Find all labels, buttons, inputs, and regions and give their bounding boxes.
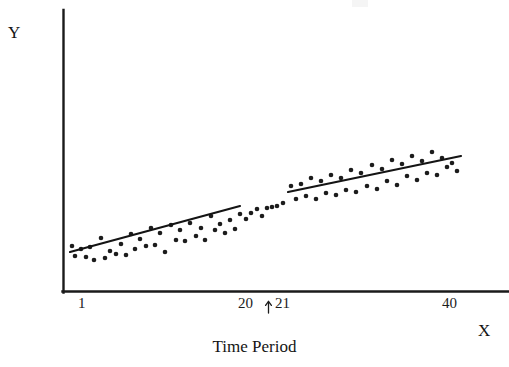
data-point xyxy=(163,250,168,255)
data-point xyxy=(420,159,425,164)
data-point xyxy=(410,154,415,159)
scatter-plot-figure: Y X 1 20 21 40 Time Period xyxy=(0,0,509,367)
data-point xyxy=(92,258,97,263)
data-point xyxy=(228,218,233,223)
data-point xyxy=(319,179,324,184)
data-point xyxy=(359,171,364,176)
y-axis-label: Y xyxy=(8,24,20,41)
data-point xyxy=(400,162,405,167)
data-point xyxy=(103,256,108,261)
data-point xyxy=(329,173,334,178)
x-tick-label-1: 1 xyxy=(78,296,86,311)
data-point xyxy=(289,184,294,189)
data-point xyxy=(455,169,460,174)
data-point xyxy=(153,243,158,248)
data-point xyxy=(194,234,199,239)
data-point xyxy=(334,193,339,198)
plot-canvas xyxy=(0,0,509,367)
x-tick-label-20: 20 xyxy=(238,296,253,311)
data-point xyxy=(265,206,270,211)
data-point xyxy=(188,221,193,226)
data-point xyxy=(354,190,359,195)
data-point xyxy=(108,249,113,254)
data-point xyxy=(244,217,249,222)
data-point xyxy=(249,211,254,216)
data-point xyxy=(183,239,188,244)
x-axis-label: X xyxy=(478,322,490,339)
data-point xyxy=(138,237,143,242)
data-point xyxy=(199,226,204,231)
data-point xyxy=(223,231,228,236)
data-point xyxy=(133,247,138,252)
data-point xyxy=(299,182,304,187)
data-point xyxy=(233,227,238,232)
data-point xyxy=(304,194,309,199)
data-point xyxy=(238,212,243,217)
data-point xyxy=(375,187,380,192)
data-point xyxy=(114,252,119,257)
data-point xyxy=(203,238,208,243)
x-axis-title: Time Period xyxy=(0,338,509,355)
scatter-points-transition xyxy=(244,201,286,222)
data-point xyxy=(405,174,410,179)
data-point xyxy=(124,253,129,258)
data-point xyxy=(281,201,286,206)
data-point xyxy=(218,222,223,227)
data-point xyxy=(174,238,179,243)
data-point xyxy=(84,255,89,260)
data-point xyxy=(324,191,329,196)
data-point xyxy=(435,173,440,178)
data-point xyxy=(450,161,455,166)
data-point xyxy=(425,171,430,176)
axis-lines xyxy=(63,10,509,293)
data-point xyxy=(213,228,218,233)
data-point xyxy=(70,244,75,249)
data-point xyxy=(349,168,354,173)
data-point xyxy=(99,236,104,241)
data-point xyxy=(415,178,420,183)
data-point xyxy=(445,165,450,170)
data-point xyxy=(390,158,395,163)
scatter-points-first-period xyxy=(70,212,243,263)
data-point xyxy=(385,179,390,184)
data-point xyxy=(370,163,375,168)
data-point xyxy=(260,214,265,219)
data-point xyxy=(430,150,435,155)
data-point xyxy=(380,167,385,172)
data-point xyxy=(255,207,260,212)
data-point xyxy=(119,242,124,247)
data-point xyxy=(395,183,400,188)
data-point xyxy=(275,204,280,209)
scatter-points-second-period xyxy=(289,150,460,202)
data-point xyxy=(294,197,299,202)
up-arrow-icon xyxy=(266,301,272,313)
data-point xyxy=(344,188,349,193)
data-point xyxy=(158,231,163,236)
data-point xyxy=(314,197,319,202)
data-point xyxy=(144,244,149,249)
data-point xyxy=(365,184,370,189)
data-point xyxy=(309,176,314,181)
data-point xyxy=(270,205,275,210)
x-tick-label-21: 21 xyxy=(275,296,290,311)
data-point xyxy=(178,228,183,233)
data-point xyxy=(73,254,78,259)
x-tick-label-40: 40 xyxy=(442,296,457,311)
